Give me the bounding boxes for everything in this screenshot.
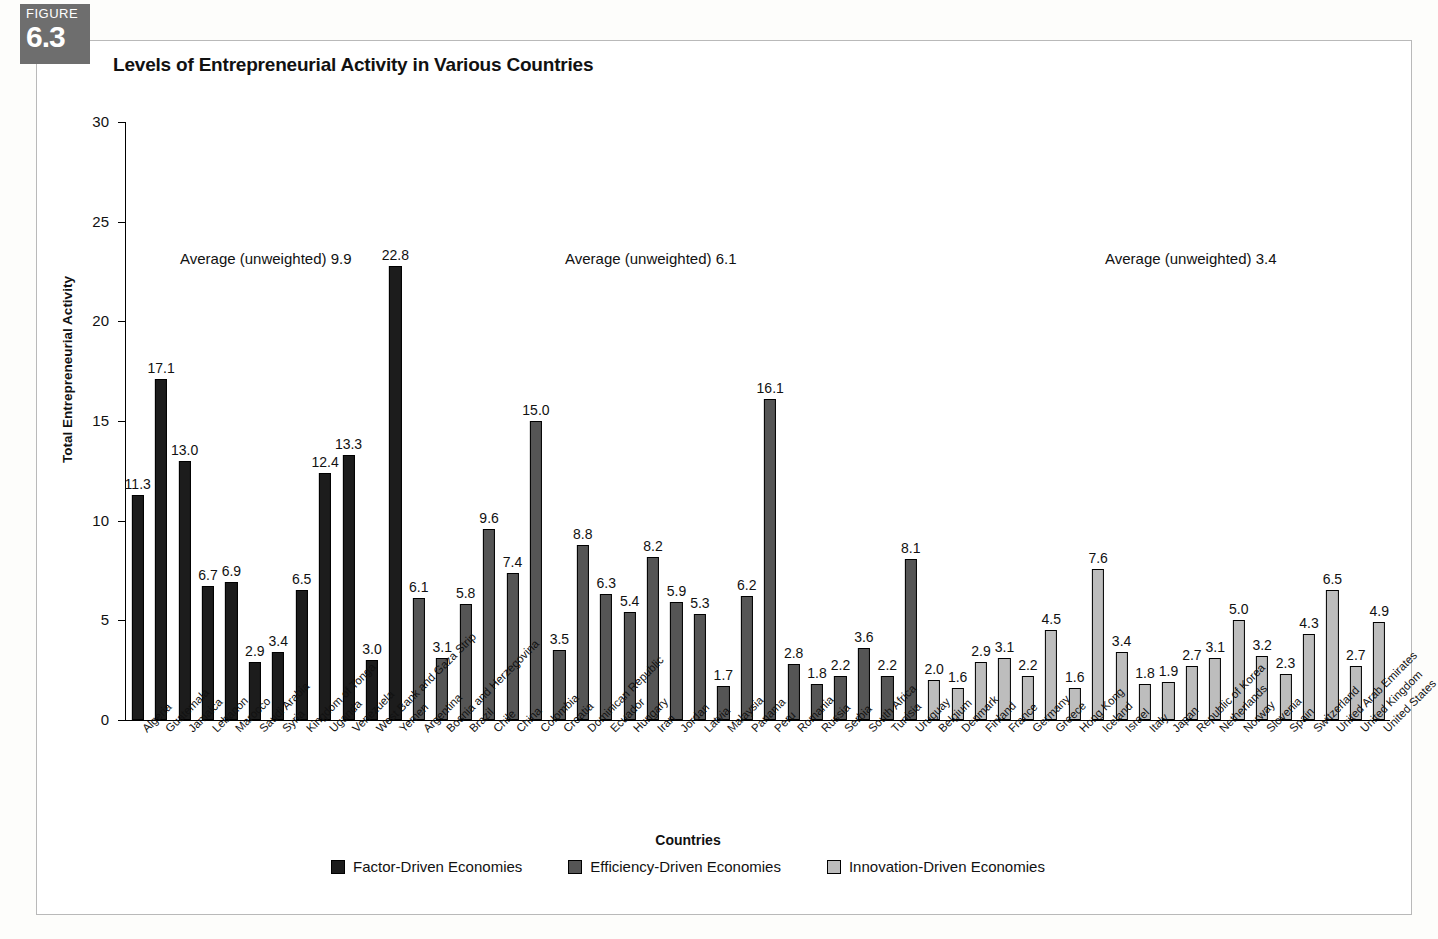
y-tick-mark — [118, 620, 125, 621]
bar-slot: 3.4 — [267, 122, 290, 720]
bar-value-label: 17.1 — [148, 360, 175, 376]
bar-slot: 1.6 — [946, 122, 969, 720]
figure-word: FIGURE — [26, 7, 90, 21]
y-tick-label: 5 — [69, 611, 109, 628]
bar-slot: 16.1 — [759, 122, 782, 720]
bar-value-label: 6.5 — [1323, 571, 1342, 587]
bar-value-label: 8.1 — [901, 540, 920, 556]
bar-value-label: 5.8 — [456, 585, 475, 601]
bar-slot: 15.0 — [524, 122, 547, 720]
y-tick-label: 0 — [69, 711, 109, 728]
bar[interactable] — [764, 399, 776, 720]
bar-slot: 2.0 — [922, 122, 945, 720]
bar-value-label: 15.0 — [522, 402, 549, 418]
legend-swatch-icon — [827, 860, 841, 874]
bar-slot: 1.8 — [1133, 122, 1156, 720]
bar-value-label: 1.6 — [1065, 669, 1084, 685]
bar-value-label: 2.0 — [924, 661, 943, 677]
bar-value-label: 5.4 — [620, 593, 639, 609]
bar-value-label: 3.0 — [362, 641, 381, 657]
y-tick-mark — [118, 421, 125, 422]
chart-title: Levels of Entrepreneurial Activity in Va… — [113, 54, 593, 76]
bar-value-label: 3.1 — [1206, 639, 1225, 655]
bar[interactable] — [670, 602, 682, 720]
bar-slot: 3.1 — [993, 122, 1016, 720]
bar-slot: 5.4 — [618, 122, 641, 720]
bar[interactable] — [155, 379, 167, 720]
bar-slot: 6.5 — [290, 122, 313, 720]
bar-value-label: 13.3 — [335, 436, 362, 452]
bar-slot: 2.7 — [1344, 122, 1367, 720]
bar-value-label: 2.7 — [1182, 647, 1201, 663]
bar[interactable] — [132, 495, 144, 720]
bar-value-label: 6.5 — [292, 571, 311, 587]
bar-value-label: 4.5 — [1042, 611, 1061, 627]
bar-value-label: 7.6 — [1088, 550, 1107, 566]
bar[interactable] — [389, 266, 401, 720]
bar-value-label: 4.9 — [1370, 603, 1389, 619]
bar-slot: 4.5 — [1040, 122, 1063, 720]
bar-slot: 2.9 — [243, 122, 266, 720]
bar-value-label: 12.4 — [311, 454, 338, 470]
y-tick-mark — [118, 321, 125, 322]
bar[interactable] — [1092, 569, 1104, 720]
bar-slot: 2.2 — [829, 122, 852, 720]
y-tick-label: 20 — [69, 312, 109, 329]
average-annotation-innovation: Average (unweighted) 3.4 — [1105, 250, 1277, 267]
bar-value-label: 2.2 — [831, 657, 850, 673]
bar[interactable] — [319, 473, 331, 720]
bar-value-label: 6.9 — [222, 563, 241, 579]
bar-value-label: 7.4 — [503, 554, 522, 570]
legend-label: Innovation-Driven Economies — [849, 858, 1045, 875]
bar-slot: 1.9 — [1157, 122, 1180, 720]
bar[interactable] — [647, 557, 659, 720]
bar-slot: 6.2 — [735, 122, 758, 720]
y-tick-mark — [118, 521, 125, 522]
legend-label: Efficiency-Driven Economies — [590, 858, 781, 875]
bar[interactable] — [530, 421, 542, 720]
bar-value-label: 2.2 — [1018, 657, 1037, 673]
bar-value-label: 5.3 — [690, 595, 709, 611]
bar-slot: 3.5 — [548, 122, 571, 720]
bar-slot: 6.1 — [407, 122, 430, 720]
bar-slot: 5.8 — [454, 122, 477, 720]
bar-value-label: 13.0 — [171, 442, 198, 458]
bar-value-label: 2.9 — [971, 643, 990, 659]
bar-slot: 9.6 — [477, 122, 500, 720]
bar-slot: 5.9 — [665, 122, 688, 720]
bar-value-label: 3.2 — [1252, 637, 1271, 653]
bar-value-label: 1.9 — [1159, 663, 1178, 679]
x-axis-title: Countries — [0, 832, 1376, 848]
bar[interactable] — [506, 573, 518, 721]
bar-value-label: 8.2 — [643, 538, 662, 554]
bar-slot: 7.4 — [501, 122, 524, 720]
y-tick-label: 25 — [69, 213, 109, 230]
bar[interactable] — [178, 461, 190, 720]
bar-slot: 5.0 — [1227, 122, 1250, 720]
bar-slot: 8.1 — [899, 122, 922, 720]
bar-slot: 6.7 — [196, 122, 219, 720]
y-tick-mark — [118, 122, 125, 123]
bar-slot: 1.6 — [1063, 122, 1086, 720]
bar-slot: 3.4 — [1110, 122, 1133, 720]
plot-area: 051015202530 Total Entrepreneurial Activ… — [125, 122, 1390, 720]
bar[interactable] — [577, 545, 589, 720]
legend-item-efficiency[interactable]: Efficiency-Driven Economies — [568, 858, 781, 875]
bar-value-label: 3.1 — [995, 639, 1014, 655]
legend-item-innovation[interactable]: Innovation-Driven Economies — [827, 858, 1045, 875]
bar-slot: 2.8 — [782, 122, 805, 720]
bar-slot: 2.2 — [876, 122, 899, 720]
bar-slot: 4.3 — [1297, 122, 1320, 720]
figure-number: 6.3 — [26, 21, 90, 53]
bar-slot: 11.3 — [126, 122, 149, 720]
bar-slot: 2.2 — [1016, 122, 1039, 720]
bar-slot: 8.2 — [641, 122, 664, 720]
bar-slot: 17.1 — [149, 122, 172, 720]
legend-item-factor[interactable]: Factor-Driven Economies — [331, 858, 522, 875]
bar-value-label: 6.3 — [596, 575, 615, 591]
bar-slot: 3.6 — [852, 122, 875, 720]
bar-value-label: 9.6 — [479, 510, 498, 526]
bar-value-label: 3.6 — [854, 629, 873, 645]
average-annotation-factor: Average (unweighted) 9.9 — [180, 250, 352, 267]
bar-slot: 12.4 — [313, 122, 336, 720]
